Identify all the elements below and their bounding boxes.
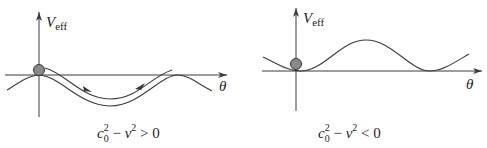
left-caption: c20 − v2 > 0 [97,122,160,144]
left-particle-ball [34,65,45,76]
left-y-axis-label: Veff [46,14,68,32]
right-y-axis-label: Veff [303,10,325,28]
left-x-axis-label: θ [219,78,227,94]
right-caption: c20 − v2 < 0 [318,122,381,144]
figure-canvas: Veff θ c20 − v2 > 0 Veff θ c20 − v2 < 0 [0,0,487,148]
left-trajectory [45,68,172,99]
right-x-axis-label: θ [466,76,474,92]
left-potential-curve [7,75,212,106]
left-panel: Veff θ c20 − v2 > 0 [5,12,227,144]
right-particle-ball [291,59,302,70]
right-panel: Veff θ c20 − v2 < 0 [262,8,482,144]
